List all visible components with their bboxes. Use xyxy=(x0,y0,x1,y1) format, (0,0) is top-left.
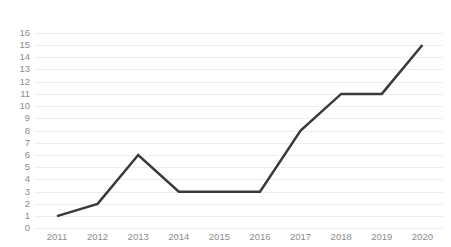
series-layer xyxy=(0,0,451,247)
data-series-line xyxy=(57,45,422,216)
line-chart: 012345678910111213141516 201120122013201… xyxy=(0,0,451,247)
